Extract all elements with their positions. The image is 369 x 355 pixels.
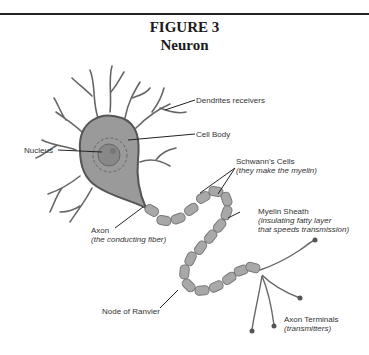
label-schwann: Schwann's Cells (they make the myelin) — [236, 157, 317, 175]
axon-note: (the conducting fiber) — [91, 235, 166, 244]
myelin-note-2: that speeds transmission) — [258, 225, 349, 234]
axon-name: Axon — [91, 226, 109, 235]
label-node-of-ranvier: Node of Ranvier — [102, 307, 160, 316]
myelin-name: Myelin Sheath — [258, 207, 309, 216]
schwann-note: (they make the myelin) — [236, 166, 317, 175]
terminals-name: Axon Terminals — [284, 315, 339, 324]
label-myelin: Myelin Sheath (insulating fatty layer th… — [258, 207, 349, 234]
neuron-diagram — [0, 0, 369, 355]
label-nucleus: Nucleus — [24, 146, 53, 155]
myelin-note-1: (insulating fatty layer — [258, 216, 349, 225]
nucleus — [98, 144, 120, 166]
schwann-name: Schwann's Cells — [236, 157, 294, 166]
label-dendrites: Dendrites receivers — [196, 96, 265, 105]
nucleolus — [110, 148, 116, 154]
terminals-note: (transmitters) — [284, 324, 339, 333]
label-cell-body: Cell Body — [196, 130, 230, 139]
label-axon-terminals: Axon Terminals (transmitters) — [284, 315, 339, 333]
label-axon: Axon (the conducting fiber) — [91, 226, 166, 244]
